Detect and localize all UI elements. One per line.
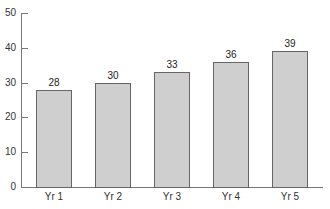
y-tick-50 <box>22 13 28 14</box>
y-tick-label: 0 <box>0 182 16 192</box>
y-tick-label: 40 <box>0 43 16 53</box>
y-tick-label: 20 <box>0 112 16 122</box>
x-category-label: Yr 5 <box>265 192 315 202</box>
bar-1 <box>36 90 72 188</box>
y-axis-line <box>21 13 22 188</box>
x-category-label: Yr 2 <box>88 192 138 202</box>
bar-value-label: 28 <box>36 78 72 88</box>
y-tick-label: 50 <box>0 8 16 18</box>
y-tick-0 <box>22 187 28 188</box>
bar-value-label: 36 <box>213 50 249 60</box>
bar-chart: 0 10 20 30 40 50 28Yr 130Yr 233Yr 336Yr … <box>0 0 330 209</box>
bar-4 <box>213 62 249 188</box>
y-tick-30 <box>22 83 28 84</box>
bar-value-label: 30 <box>95 71 131 81</box>
y-tick-label: 30 <box>0 78 16 88</box>
x-category-label: Yr 3 <box>147 192 197 202</box>
bar-5 <box>272 51 308 188</box>
x-category-label: Yr 4 <box>206 192 256 202</box>
x-category-label: Yr 1 <box>29 192 79 202</box>
bar-value-label: 33 <box>154 60 190 70</box>
bar-value-label: 39 <box>272 39 308 49</box>
y-tick-20 <box>22 117 28 118</box>
bar-2 <box>95 83 131 188</box>
y-tick-label: 10 <box>0 147 16 157</box>
bar-3 <box>154 72 190 188</box>
y-tick-40 <box>22 48 28 49</box>
y-tick-10 <box>22 152 28 153</box>
